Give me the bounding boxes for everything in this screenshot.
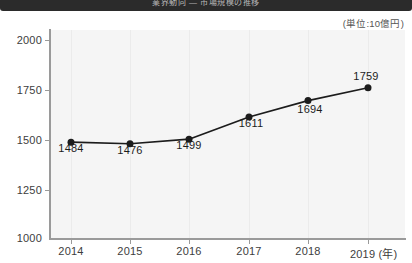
point-label-2018: 1694 bbox=[297, 103, 322, 115]
line-chart: 2000 1750 1500 1250 1000 2014 2015 2016 … bbox=[0, 0, 412, 263]
point-label-2019: 1759 bbox=[353, 70, 378, 82]
point-label-2017: 1611 bbox=[239, 117, 263, 129]
point-label-2016: 1499 bbox=[176, 139, 201, 151]
series-line-market-size bbox=[0, 0, 412, 263]
point-label-2014: 1484 bbox=[58, 142, 83, 154]
point-label-2015: 1476 bbox=[117, 144, 142, 156]
